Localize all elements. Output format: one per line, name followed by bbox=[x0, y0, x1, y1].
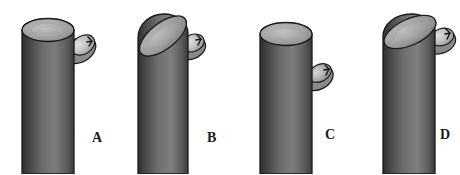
cylinder-diagram-svg bbox=[0, 0, 460, 174]
panel-b-stem bbox=[133, 9, 193, 174]
panel-a-stem bbox=[22, 19, 74, 175]
panel-label-a: A bbox=[92, 130, 102, 146]
panel-c-drawing bbox=[260, 23, 338, 175]
panel-c-stem bbox=[260, 23, 312, 175]
panel-d-stem bbox=[379, 8, 441, 174]
panel-label-d: D bbox=[440, 127, 450, 143]
figure-canvas: A B C D bbox=[0, 0, 460, 174]
panel-b-drawing bbox=[133, 9, 209, 174]
panel-label-c: C bbox=[325, 127, 335, 143]
panel-a-drawing bbox=[22, 19, 101, 175]
panel-label-b: B bbox=[207, 130, 216, 146]
panel-d-drawing bbox=[379, 8, 459, 174]
